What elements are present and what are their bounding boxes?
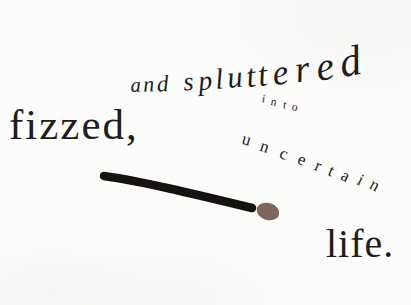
page: andspluttered fizzed, into uncertain lif… xyxy=(0,0,411,305)
arc-letter: n xyxy=(258,137,271,156)
arc-letter: a xyxy=(339,166,353,185)
arc-letter: e xyxy=(295,151,308,170)
arc-letter: n xyxy=(367,176,383,195)
arc-letter: u xyxy=(240,130,253,149)
arc-letter: r xyxy=(313,157,325,175)
word-life: life. xyxy=(326,224,394,264)
arc-letter: c xyxy=(277,144,290,163)
arc-letter: t xyxy=(326,162,337,179)
arc-letter: i xyxy=(354,172,366,189)
